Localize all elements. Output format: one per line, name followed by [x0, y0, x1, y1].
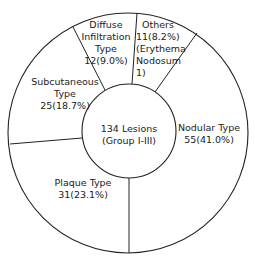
segment-label-nodular: Nodular Type 55(41.0%) [176, 122, 242, 146]
center-label: 134 Lesions (Group I-III) [88, 123, 170, 147]
divider-plaque-subcutaneous [10, 138, 82, 144]
segment-label-others: Others 11(8.2%) (Erythema Nodosum 1) [136, 19, 186, 79]
segment-label-subcutaneous: Subcutaneous Type 25(18.7%) [28, 76, 102, 112]
segment-label-plaque: Plaque Type 31(23.1%) [48, 177, 118, 201]
segment-label-diffuse: Diffuse Infiltration Type 12(9.0%) [80, 19, 132, 67]
